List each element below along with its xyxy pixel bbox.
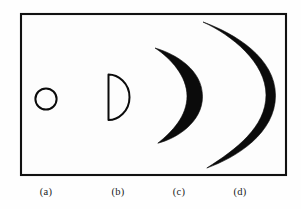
figure-root: (a) (b) (c) (d) xyxy=(0,0,301,209)
panel-label-d: (d) xyxy=(234,186,247,198)
figure-frame-border xyxy=(21,14,286,175)
shape-group-a xyxy=(35,88,56,109)
circle-shape-a xyxy=(35,88,56,109)
shape-figure-canvas: (a) (b) (c) (d) xyxy=(0,0,301,209)
panel-label-a: (a) xyxy=(40,186,53,198)
panel-label-c: (c) xyxy=(173,186,186,198)
panel-label-b: (b) xyxy=(112,186,125,198)
